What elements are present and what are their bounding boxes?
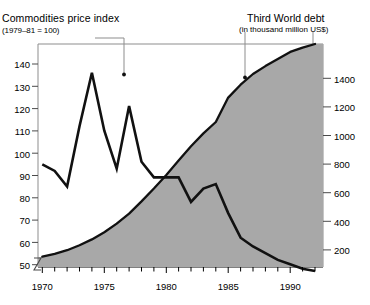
x-axis-ticks [42, 267, 315, 273]
annotation-leader-debt [243, 32, 247, 79]
y2-axis-ticks [323, 78, 331, 250]
y-axis-ticks [32, 64, 38, 265]
chart-figure: Commodities price index (1979–81 = 100) … [0, 0, 370, 305]
chart-canvas [0, 0, 370, 305]
series-third-world-debt-area [38, 44, 323, 267]
